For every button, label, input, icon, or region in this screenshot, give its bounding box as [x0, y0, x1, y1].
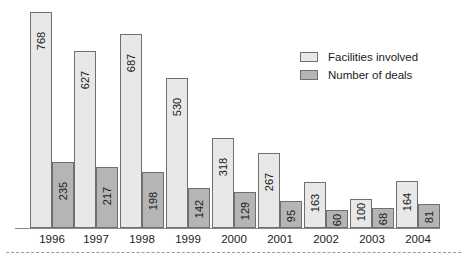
bar-facilities-1996: 768 — [30, 12, 52, 228]
bar-value-label: 687 — [125, 54, 137, 72]
bar-value-label: 100 — [355, 203, 367, 221]
bar-value-label: 318 — [217, 158, 229, 176]
bar-deals-1997: 217 — [96, 167, 118, 228]
bar-value-label: 142 — [193, 200, 205, 218]
plot-area: 768 235 627 217 687 198 530 142 318 — [0, 0, 467, 260]
bar-facilities-2000: 318 — [212, 138, 234, 228]
bar-facilities-1998: 687 — [120, 34, 142, 228]
legend-label: Facilities involved — [328, 51, 418, 63]
bar-facilities-1999: 530 — [166, 78, 188, 228]
legend-item-facilities: Facilities involved — [300, 50, 418, 64]
legend-swatch-icon — [300, 52, 318, 62]
bar-value-label: 217 — [101, 187, 113, 205]
bar-value-label: 68 — [377, 213, 389, 225]
bar-deals-2002: 60 — [326, 210, 348, 228]
bar-deals-2001: 95 — [280, 201, 302, 228]
bar-facilities-2003: 100 — [350, 199, 372, 228]
legend-label: Number of deals — [328, 69, 412, 81]
bar-deals-2004: 81 — [418, 204, 440, 228]
bar-facilities-1997: 627 — [74, 51, 96, 228]
bar-deals-2003: 68 — [372, 208, 394, 228]
bar-value-label: 530 — [171, 98, 183, 116]
legend-item-deals: Number of deals — [300, 68, 418, 82]
bar-chart: 768 235 627 217 687 198 530 142 318 — [0, 0, 467, 260]
chart-legend: Facilities involved Number of deals — [300, 50, 418, 86]
bottom-dashed-separator — [6, 252, 461, 253]
bar-value-label: 235 — [57, 182, 69, 200]
bar-value-label: 95 — [285, 210, 297, 222]
bar-deals-1998: 198 — [142, 172, 164, 228]
bar-value-label: 267 — [263, 173, 275, 191]
bar-value-label: 60 — [331, 214, 343, 226]
bar-value-label: 164 — [401, 193, 413, 211]
bar-value-label: 627 — [79, 71, 91, 89]
bar-deals-1999: 142 — [188, 188, 210, 228]
bar-deals-2000: 129 — [234, 192, 256, 228]
legend-swatch-icon — [300, 70, 318, 80]
x-axis-tick-2004: 2004 — [388, 233, 448, 245]
bar-value-label: 81 — [423, 211, 435, 223]
bar-deals-1996: 235 — [52, 162, 74, 228]
bar-value-label: 129 — [239, 202, 251, 220]
x-axis-line — [15, 228, 440, 229]
bar-value-label: 163 — [309, 194, 321, 212]
bar-value-label: 768 — [35, 32, 47, 50]
bar-facilities-2001: 267 — [258, 153, 280, 228]
bar-value-label: 198 — [147, 192, 159, 210]
bar-facilities-2004: 164 — [396, 181, 418, 228]
bar-facilities-2002: 163 — [304, 182, 326, 228]
